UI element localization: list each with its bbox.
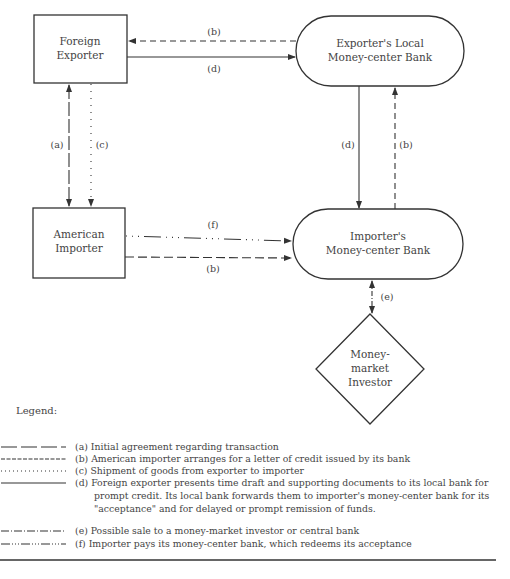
- exporters-bank-label-2: Money-center Bank: [328, 51, 433, 63]
- edge-label-d-right: (d): [341, 139, 355, 150]
- node-importers-bank: Importer's Money-center Bank: [293, 209, 463, 279]
- edge-f: [126, 236, 291, 241]
- node-american-importer: American Importer: [33, 208, 125, 278]
- edge-label-a: (a): [50, 139, 63, 150]
- importers-bank-label-1: Importer's: [350, 230, 406, 242]
- legend-samples: [1, 447, 66, 544]
- legend-text-f: (f) Importer pays its money-center bank,…: [75, 538, 495, 550]
- legend-text-d-1: (d) Foreign exporter presents time draft…: [75, 477, 495, 489]
- edge-label-b-mid: (b): [206, 263, 220, 274]
- legend-text-d-3: "acceptance" and for delayed or prompt r…: [94, 503, 510, 515]
- edge-label-e: (e): [380, 291, 393, 302]
- edge-b-mid: [125, 257, 291, 258]
- edge-label-d-top: (d): [207, 63, 221, 74]
- legend-title: Legend:: [16, 405, 57, 416]
- legend-text-a: (a) Initial agreement regarding transact…: [75, 441, 495, 453]
- foreign-exporter-label-1: Foreign: [59, 35, 100, 47]
- edge-label-f: (f): [208, 219, 219, 230]
- american-importer-label-1: American: [52, 228, 104, 240]
- node-money-market-investor: Money- market Investor: [316, 314, 424, 424]
- edge-label-b-right: (b): [399, 139, 413, 150]
- legend-text-e: (e) Possible sale to a money-market inve…: [75, 525, 495, 537]
- legend-text-b: (b) American importer arranges for a let…: [75, 453, 495, 465]
- foreign-exporter-label-2: Exporter: [56, 49, 104, 61]
- investor-label-1: Money-: [350, 348, 390, 360]
- exporters-bank-label-1: Exporter's Local: [336, 37, 424, 49]
- legend-text-d-2: prompt credit. Its local bank forwards t…: [94, 490, 510, 502]
- importers-bank-label-2: Money-center Bank: [326, 244, 431, 256]
- edge-label-b-top: (b): [207, 26, 221, 37]
- investor-label-2: market: [351, 362, 390, 374]
- node-foreign-exporter: Foreign Exporter: [34, 15, 127, 83]
- investor-label-3: Investor: [348, 376, 393, 388]
- node-exporters-bank: Exporter's Local Money-center Bank: [296, 16, 464, 86]
- legend-text-c: (c) Shipment of goods from exporter to i…: [75, 465, 495, 477]
- american-importer-label-2: Importer: [55, 242, 104, 254]
- edge-label-c: (c): [96, 139, 109, 150]
